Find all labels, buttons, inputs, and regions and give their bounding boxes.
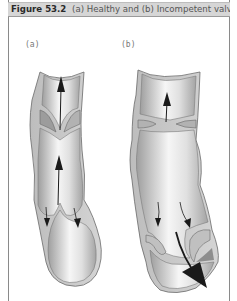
valve-illustration (0, 0, 237, 301)
incompetent-vein (130, 70, 218, 293)
healthy-vein (30, 72, 101, 286)
